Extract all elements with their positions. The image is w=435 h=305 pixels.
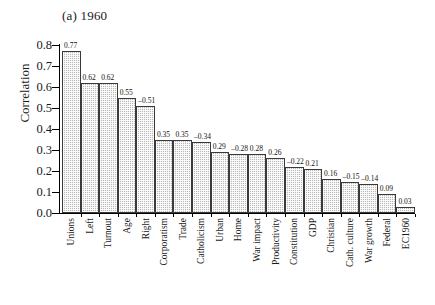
bar[interactable] xyxy=(173,140,192,214)
bar[interactable] xyxy=(248,154,267,213)
bar-column[interactable]: 0.09 xyxy=(378,45,397,213)
bar[interactable] xyxy=(229,154,248,213)
bar-value-label: 0.29 xyxy=(213,142,226,151)
bar-value-label: 0.26 xyxy=(268,148,281,157)
x-axis-tick xyxy=(192,214,193,217)
x-axis-tick-label: Productivity xyxy=(271,218,281,265)
bar-column[interactable]: 0.62 xyxy=(81,45,100,213)
bar[interactable] xyxy=(211,152,230,213)
x-axis-tick xyxy=(341,214,342,217)
bar-column[interactable]: –0.15 xyxy=(341,45,360,213)
x-axis-label-column: Urban xyxy=(211,216,230,304)
x-axis-tick xyxy=(378,214,379,217)
bar-column[interactable]: 0.26 xyxy=(266,45,285,213)
x-axis-tick-label: Left xyxy=(85,218,95,234)
x-axis-label-column: Right xyxy=(136,216,155,304)
x-axis-tick-label: Unions xyxy=(66,218,76,245)
bar[interactable] xyxy=(81,83,100,213)
bar[interactable] xyxy=(62,51,81,213)
y-axis-tick xyxy=(52,66,59,67)
bar-column[interactable]: –0.14 xyxy=(359,45,378,213)
x-axis-tick xyxy=(322,214,323,217)
bar-column[interactable]: 0.77 xyxy=(62,45,81,213)
x-axis-tick-label: Catholicism xyxy=(196,218,206,264)
x-axis-label-column: Unions xyxy=(62,216,81,304)
x-axis-label-column: Trade xyxy=(173,216,192,304)
bar-column[interactable]: 0.16 xyxy=(322,45,341,213)
bar-value-label: –0.22 xyxy=(287,157,304,166)
bar-column[interactable]: 0.62 xyxy=(99,45,118,213)
bar[interactable] xyxy=(192,142,211,213)
bar-value-label: –0.51 xyxy=(138,96,155,105)
bar[interactable] xyxy=(99,83,118,213)
bar[interactable] xyxy=(266,158,285,213)
bar[interactable] xyxy=(285,167,304,213)
x-axis-tick-label: Corporatism xyxy=(159,218,169,266)
bar-column[interactable]: –0.51 xyxy=(136,45,155,213)
x-axis-label-column: War growth xyxy=(359,216,378,304)
bar-value-label: 0.55 xyxy=(120,88,133,97)
bar-column[interactable]: –0.22 xyxy=(285,45,304,213)
x-axis-tick xyxy=(415,214,416,217)
y-axis-tick-label: 0.7 xyxy=(22,66,52,67)
x-axis-label-column: Productivity xyxy=(266,216,285,304)
y-axis-tick xyxy=(52,150,59,151)
x-axis-tick-label: War impact xyxy=(252,218,262,262)
bar-value-label: 0.62 xyxy=(101,73,114,82)
bar[interactable] xyxy=(341,182,360,214)
bar[interactable] xyxy=(396,207,415,213)
x-axis-label-column: GDP xyxy=(304,216,323,304)
y-axis-tick xyxy=(52,108,59,109)
x-axis-label-column: Age xyxy=(118,216,137,304)
x-axis-label-column: Turnout xyxy=(99,216,118,304)
x-axis-label-column: War impact xyxy=(248,216,267,304)
x-axis-tick xyxy=(136,214,137,217)
bar[interactable] xyxy=(136,106,155,213)
x-axis-tick-label: Christian xyxy=(326,218,336,253)
x-axis-label-column: Corporatism xyxy=(155,216,174,304)
x-axis-tick xyxy=(173,214,174,217)
bar-value-label: 0.62 xyxy=(83,73,96,82)
bar-value-label: –0.34 xyxy=(194,132,211,141)
bar-column[interactable]: –0.34 xyxy=(192,45,211,213)
bar-column[interactable]: 0.29 xyxy=(211,45,230,213)
chart-title: (a) 1960 xyxy=(62,8,107,24)
y-axis-tick-label: 0.4 xyxy=(22,129,52,130)
bar[interactable] xyxy=(322,179,341,213)
chart-figure: (a) 1960 Correlation 0.00.10.20.30.40.50… xyxy=(0,0,435,305)
x-axis-tick xyxy=(248,214,249,217)
x-axis-tick-label: Turnout xyxy=(103,218,113,248)
bar[interactable] xyxy=(304,169,323,213)
bar-value-label: 0.35 xyxy=(175,130,188,139)
x-axis-tick xyxy=(229,214,230,217)
x-axis-tick-label: Urban xyxy=(215,218,225,242)
x-axis-label-column: Constitution xyxy=(285,216,304,304)
x-axis-tick xyxy=(266,214,267,217)
bar-column[interactable]: 0.28 xyxy=(248,45,267,213)
bar-value-label: 0.77 xyxy=(64,41,77,50)
bar-column[interactable]: 0.21 xyxy=(304,45,323,213)
y-axis-tick xyxy=(52,87,59,88)
bar-column[interactable]: 0.55 xyxy=(118,45,137,213)
x-axis-tick xyxy=(304,214,305,217)
x-axis-label-column: Federal xyxy=(378,216,397,304)
bar[interactable] xyxy=(378,194,397,213)
x-axis-tick xyxy=(211,214,212,217)
y-axis-tick-label: 0.8 xyxy=(22,45,52,46)
bar[interactable] xyxy=(359,184,378,213)
bar[interactable] xyxy=(118,98,137,214)
bar-column[interactable]: 0.35 xyxy=(155,45,174,213)
y-axis-tick-label: 0.2 xyxy=(22,171,52,172)
bar[interactable] xyxy=(155,140,174,214)
y-axis-tick-label: 0.0 xyxy=(22,213,52,214)
bar-column[interactable]: 0.35 xyxy=(173,45,192,213)
bar-value-label: 0.35 xyxy=(157,130,170,139)
x-axis-tick-label: Federal xyxy=(382,218,392,247)
y-axis-tick-label: 0.1 xyxy=(22,192,52,193)
x-axis-tick xyxy=(285,214,286,217)
x-axis-tick xyxy=(155,214,156,217)
bar-column[interactable]: 0.03 xyxy=(396,45,415,213)
bar-value-label: –0.28 xyxy=(231,144,248,153)
x-axis-tick xyxy=(99,214,100,217)
bar-column[interactable]: –0.28 xyxy=(229,45,248,213)
